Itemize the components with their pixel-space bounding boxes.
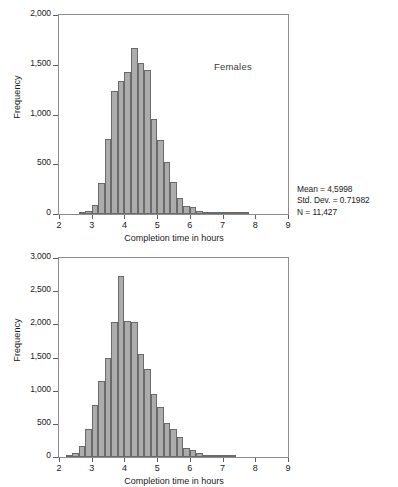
- x-tick-label: 7: [214, 220, 232, 230]
- histogram-bar: [196, 211, 203, 214]
- histogram-bar: [170, 429, 177, 457]
- histogram-bar: [98, 381, 105, 457]
- histogram-bar: [151, 394, 158, 457]
- histogram-bar: [190, 207, 197, 214]
- plot-frame-females: Females: [58, 14, 289, 215]
- x-tick-mark: [255, 458, 256, 462]
- y-axis-title-females: Frequency: [12, 42, 22, 152]
- histogram-bar: [144, 369, 151, 457]
- x-tick-label: 8: [246, 463, 264, 473]
- y-tick-label: 3,000: [30, 251, 51, 261]
- histogram-bar: [85, 429, 92, 457]
- histogram-bar: [124, 72, 131, 214]
- x-tick-mark: [190, 458, 191, 462]
- x-tick-label: 8: [246, 220, 264, 230]
- x-tick-label: 5: [148, 463, 166, 473]
- plot-area-males: [59, 258, 288, 457]
- y-tick-label: 2,500: [30, 284, 51, 294]
- y-tick-label: 2,000: [30, 8, 51, 18]
- histogram-bar: [229, 212, 236, 214]
- histogram-bar: [216, 212, 223, 214]
- x-tick-mark: [223, 458, 224, 462]
- histogram-bar: [177, 437, 184, 457]
- x-tick-mark: [124, 458, 125, 462]
- x-axis-title-males: Completion time in hours: [58, 476, 290, 486]
- y-tick-label: 0: [46, 207, 51, 217]
- x-tick-mark: [92, 458, 93, 462]
- x-tick-mark: [92, 215, 93, 219]
- histogram-bar: [216, 455, 223, 457]
- histogram-bar: [98, 183, 105, 214]
- y-axis-males: Frequency 05001,0001,5002,0002,5003,000: [0, 257, 58, 459]
- histogram-bar: [151, 119, 158, 214]
- x-axis-title-females: Completion time in hours: [58, 233, 290, 243]
- plot-frame-males: Males: [58, 257, 289, 458]
- x-tick-mark: [255, 215, 256, 219]
- histogram-bar: [203, 455, 210, 457]
- histogram-bar: [144, 70, 151, 214]
- stats-block-females: Mean = 4,5998 Std. Dev. = 0.71982 N = 11…: [297, 184, 397, 218]
- histogram-bar: [92, 405, 99, 457]
- x-tick-mark: [157, 215, 158, 219]
- y-tick-label: 500: [37, 417, 51, 427]
- histogram-bar: [164, 162, 171, 214]
- x-tick-label: 7: [214, 463, 232, 473]
- histogram-bar: [118, 276, 125, 457]
- histogram-bar: [124, 321, 131, 457]
- x-tick-label: 3: [83, 220, 101, 230]
- x-tick-label: 3: [83, 463, 101, 473]
- y-tick-label: 1,000: [30, 108, 51, 118]
- histogram-panel-females: Frequency 05001,0001,5002,000 Females 23…: [0, 6, 398, 238]
- histogram-bar: [92, 205, 99, 214]
- y-axis-title-males: Frequency: [12, 285, 22, 395]
- histogram-bar: [229, 455, 236, 457]
- x-tick-label: 6: [181, 220, 199, 230]
- histogram-bar: [118, 81, 125, 214]
- x-tick-label: 5: [148, 220, 166, 230]
- x-tick-mark: [59, 458, 60, 462]
- stats-stddev-females: Std. Dev. = 0.71982: [297, 195, 397, 206]
- x-tick-label: 2: [50, 220, 68, 230]
- histogram-bar: [170, 182, 177, 214]
- plot-area-females: [59, 15, 288, 214]
- histogram-bar: [203, 212, 210, 214]
- x-axis-females: 23456789 Completion time in hours: [58, 215, 290, 245]
- x-tick-mark: [157, 458, 158, 462]
- y-tick-label: 1,500: [30, 351, 51, 361]
- x-tick-mark: [190, 215, 191, 219]
- y-tick-label: 1,500: [30, 58, 51, 68]
- histogram-bar: [223, 455, 230, 457]
- x-tick-label: 9: [279, 463, 297, 473]
- y-tick-label: 500: [37, 157, 51, 167]
- stats-mean-females: Mean = 4,5998: [297, 184, 397, 195]
- series-label-females: Females: [214, 61, 252, 72]
- histogram-bar: [223, 212, 230, 214]
- x-tick-mark: [124, 215, 125, 219]
- histogram-bar: [111, 322, 118, 457]
- histogram-bar: [138, 63, 145, 214]
- histogram-panel-males: Frequency 05001,0001,5002,0002,5003,000 …: [0, 249, 398, 481]
- x-axis-males: 23456789 Completion time in hours: [58, 458, 290, 487]
- y-tick-label: 2,000: [30, 317, 51, 327]
- x-tick-label: 4: [115, 220, 133, 230]
- histogram-bar: [190, 450, 197, 457]
- histogram-bar: [242, 212, 249, 214]
- histogram-bar: [164, 423, 171, 457]
- x-tick-label: 4: [115, 463, 133, 473]
- y-tick-label: 1,000: [30, 384, 51, 394]
- y-axis-females: Frequency 05001,0001,5002,000: [0, 14, 58, 216]
- histogram-bar: [177, 198, 184, 214]
- histogram-bar: [85, 211, 92, 214]
- x-tick-mark: [59, 215, 60, 219]
- histogram-bar: [72, 453, 79, 457]
- histogram-bar: [111, 91, 118, 214]
- x-tick-mark: [288, 458, 289, 462]
- y-tick-label: 0: [46, 450, 51, 460]
- x-tick-label: 9: [279, 220, 297, 230]
- x-tick-mark: [288, 215, 289, 219]
- histogram-bar: [66, 455, 73, 457]
- stats-n-females: N = 11,427: [297, 207, 397, 218]
- x-tick-mark: [223, 215, 224, 219]
- x-tick-label: 2: [50, 463, 68, 473]
- x-tick-label: 6: [181, 463, 199, 473]
